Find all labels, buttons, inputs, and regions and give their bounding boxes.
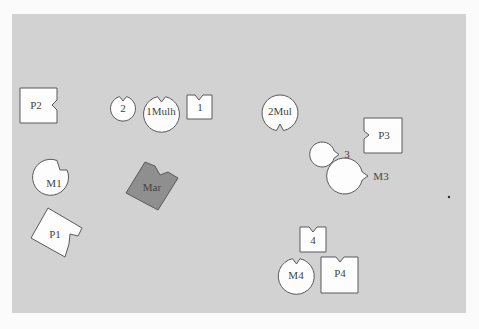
piece-label: 4 — [310, 234, 316, 246]
piece-label: Mar — [143, 181, 162, 193]
piece-4[interactable]: 4 — [300, 227, 326, 252]
piece-label: 1 — [197, 101, 203, 113]
piece-p2[interactable]: P2 — [20, 88, 57, 123]
piece-p3[interactable]: P3 — [364, 118, 402, 153]
piece-2mul[interactable]: 2Mul — [262, 95, 298, 131]
piece-label: P2 — [30, 99, 42, 111]
piece-label: P3 — [378, 129, 390, 141]
piece-label: 2 — [120, 102, 126, 114]
piece-p1[interactable]: P1 — [31, 208, 82, 257]
piece-1[interactable]: 1 — [187, 95, 212, 119]
piece-label: P1 — [49, 228, 61, 240]
piece-2[interactable]: 2 — [111, 97, 136, 122]
piece-m3[interactable]: M3 — [327, 158, 389, 194]
piece-label: M4 — [288, 269, 304, 281]
piece-label: 2Mul — [268, 105, 292, 117]
piece-m4[interactable]: M4 — [278, 259, 314, 295]
marker-mar[interactable]: Mar — [126, 162, 178, 210]
piece-label: M3 — [373, 170, 389, 182]
piece-p4[interactable]: P4 — [321, 257, 358, 293]
piece-1mulh[interactable]: 1Mulh — [144, 97, 180, 133]
piece-label: M1 — [46, 177, 61, 189]
piece-m1[interactable]: M1 — [33, 159, 69, 195]
dot-marker — [448, 196, 450, 198]
piece-label: P4 — [334, 267, 346, 279]
piece-label: 1Mulh — [146, 105, 176, 117]
